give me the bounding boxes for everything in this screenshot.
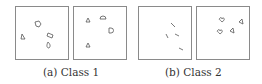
class2-panel-2 <box>196 6 250 60</box>
caption-b: (b) Class 2 <box>165 66 222 78</box>
class1-panel-2 <box>73 6 127 60</box>
class2-panel-1 <box>138 6 192 60</box>
caption-a: (a) Class 1 <box>43 66 99 78</box>
class2-panel-1-shapes <box>139 7 193 61</box>
class2-panel-2-shapes <box>197 7 251 61</box>
class1-panel-1-shapes <box>16 7 70 61</box>
class1-panel-2-shapes <box>74 7 128 61</box>
class1-panel-1 <box>15 6 69 60</box>
